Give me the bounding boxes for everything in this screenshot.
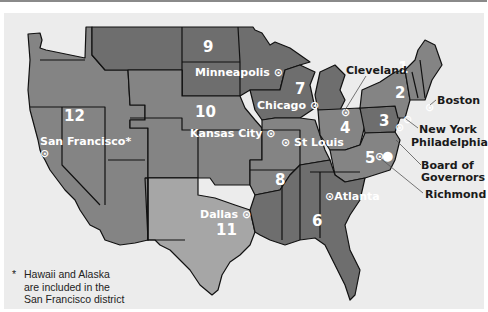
footnote-line-1: Hawaii and Alaska [14,268,124,281]
footnote-star: * [12,268,16,281]
footnote: * Hawaii and Alaska are included in the … [14,268,124,306]
footnote-line-3: San Francisco district [14,293,124,306]
footnote-line-2: are included in the [14,281,124,294]
